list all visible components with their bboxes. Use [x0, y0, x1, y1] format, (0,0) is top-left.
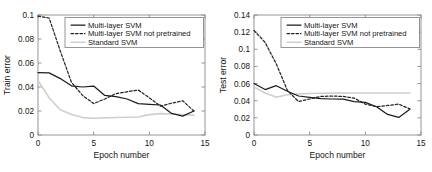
train-error-plot: 05101500.020.040.060.080.1Epoch numberTr… — [0, 0, 216, 172]
y-tick-label: 0 — [29, 131, 34, 140]
y-tick-label: 0.06 — [18, 59, 34, 68]
train-axes-group: 05101500.020.040.060.080.1Epoch numberTr… — [2, 11, 210, 160]
y-tick-label: 0.1 — [239, 45, 251, 54]
y-tick-label: 0.1 — [23, 11, 35, 20]
y-tick-label: 0.14 — [234, 11, 250, 20]
x-tick-label: 15 — [200, 139, 210, 148]
x-tick-label: 0 — [252, 139, 257, 148]
x-tick-label: 10 — [145, 139, 155, 148]
x-tick-label: 10 — [361, 139, 371, 148]
test-axes-group: 05101500.020.040.060.080.10.120.14Epoch … — [218, 11, 426, 160]
y-tick-label: 0.08 — [234, 62, 250, 71]
x-tick-label: 0 — [36, 139, 41, 148]
legend-label-2: Standard SVM — [88, 38, 137, 47]
y-axis-title: Train error — [2, 55, 12, 95]
y-tick-label: 0.08 — [18, 35, 34, 44]
test-error-plot: 05101500.020.040.060.080.10.120.14Epoch … — [216, 0, 432, 172]
y-tick-label: 0.04 — [18, 83, 34, 92]
y-axis-title: Test error — [218, 57, 228, 93]
legend-label-2: Standard SVM — [304, 38, 353, 47]
y-tick-label: 0.02 — [18, 107, 34, 116]
chart-panel-train-error: 05101500.020.040.060.080.1Epoch numberTr… — [0, 0, 216, 172]
x-tick-label: 5 — [91, 139, 96, 148]
y-tick-label: 0.12 — [234, 28, 250, 37]
y-tick-label: 0 — [245, 131, 250, 140]
y-tick-label: 0.06 — [234, 80, 250, 89]
x-axis-title: Epoch number — [94, 150, 150, 160]
y-tick-label: 0.04 — [234, 97, 250, 106]
chart-panel-test-error: 05101500.020.040.060.080.10.120.14Epoch … — [216, 0, 432, 172]
series-line-solid — [254, 84, 410, 118]
figure-container: 05101500.020.040.060.080.1Epoch numberTr… — [0, 0, 432, 172]
x-axis-title: Epoch number — [310, 150, 366, 160]
x-tick-label: 5 — [307, 139, 312, 148]
x-tick-label: 15 — [416, 139, 426, 148]
y-tick-label: 0.02 — [234, 114, 250, 123]
